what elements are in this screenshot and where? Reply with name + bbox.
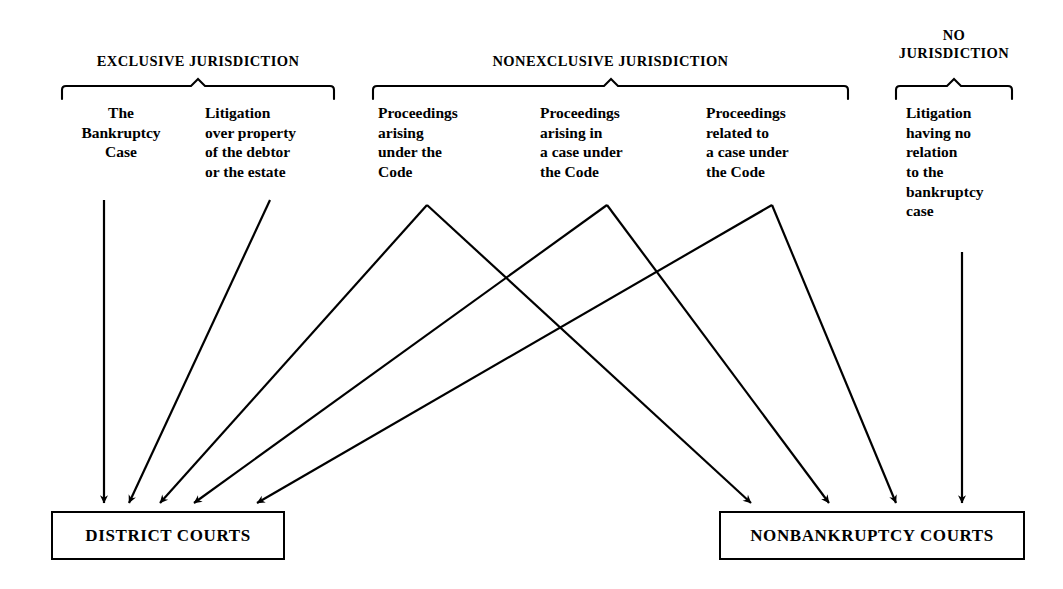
court-box-nonbankruptcy-courts: NONBANKRUPTCY COURTS xyxy=(719,511,1025,560)
column-label-proceedings-arising-in-a-case-under-the-code: Proceedings arising in a case under the … xyxy=(540,103,680,182)
column-label-litigation-having-no-relation: Litigation having no relation to the ban… xyxy=(906,103,1018,221)
connector-arising-in-case-to-district-courts xyxy=(194,205,607,503)
column-label-proceedings-arising-under-the-code: Proceedings arising under the Code xyxy=(378,103,503,182)
connector-related-to-case-to-nonbankruptcy-courts xyxy=(772,205,896,503)
brace-nonexclusive-jurisdiction xyxy=(373,79,848,99)
column-label-proceedings-related-to-a-case-under-the-code: Proceedings related to a case under the … xyxy=(706,103,846,182)
group-heading-no-jurisdiction: NO JURISDICTION xyxy=(896,26,1012,62)
connector-arising-under-code-to-nonbankruptcy-courts xyxy=(427,205,751,503)
connector-arising-under-code-to-district-courts xyxy=(160,205,427,503)
diagram-lines-layer xyxy=(0,0,1063,589)
court-box-district-courts: DISTRICT COURTS xyxy=(51,511,285,560)
connector-related-to-case-to-district-courts xyxy=(257,205,772,503)
connector-arising-in-case-to-nonbankruptcy-courts xyxy=(607,205,829,503)
court-box-label-district-courts: DISTRICT COURTS xyxy=(85,526,250,546)
group-heading-exclusive-jurisdiction: EXCLUSIVE JURISDICTION xyxy=(62,52,334,70)
jurisdiction-diagram: EXCLUSIVE JURISDICTION NONEXCLUSIVE JURI… xyxy=(0,0,1063,589)
group-heading-nonexclusive-jurisdiction: NONEXCLUSIVE JURISDICTION xyxy=(373,52,848,70)
column-label-bankruptcy-case: The Bankruptcy Case xyxy=(66,103,176,162)
court-box-label-nonbankruptcy-courts: NONBANKRUPTCY COURTS xyxy=(750,526,994,546)
column-label-litigation-over-property: Litigation over property of the debtor o… xyxy=(205,103,335,182)
brace-no-jurisdiction xyxy=(896,79,1012,99)
brace-exclusive-jurisdiction xyxy=(62,79,334,99)
